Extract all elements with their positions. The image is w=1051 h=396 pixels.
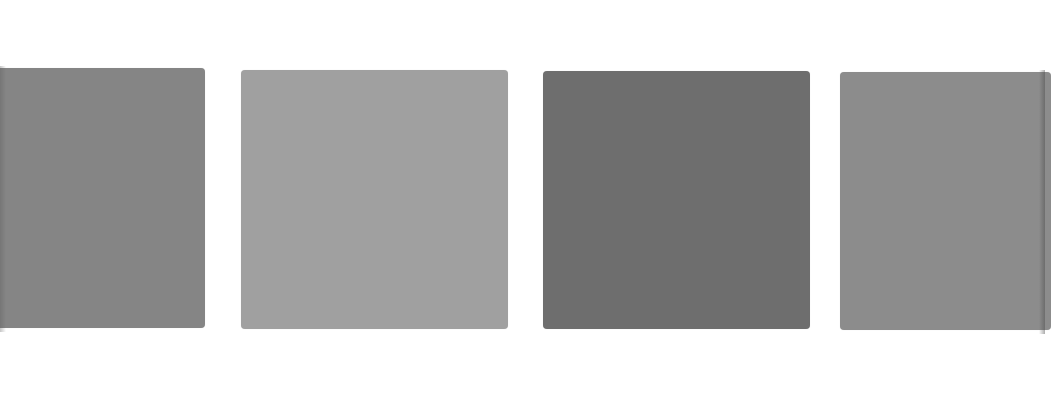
left-edge-shadow: [0, 66, 6, 332]
gray-swatch-1: [0, 68, 205, 328]
gray-swatch-2: [241, 70, 508, 329]
right-edge-shadow: [1039, 70, 1045, 334]
gray-swatch-4: [840, 72, 1051, 330]
gray-swatch-3: [543, 71, 810, 329]
